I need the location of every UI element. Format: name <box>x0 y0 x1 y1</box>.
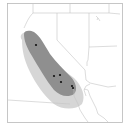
map-background <box>0 0 131 129</box>
occurrence-point <box>35 44 37 46</box>
occurrence-point <box>59 74 61 76</box>
occurrence-point <box>72 87 74 89</box>
occurrence-point <box>60 81 62 83</box>
occurrence-point <box>71 85 73 87</box>
range-map <box>0 0 131 129</box>
occurrence-point <box>53 75 55 77</box>
